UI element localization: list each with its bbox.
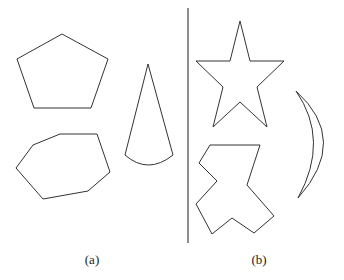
pentagon-shape — [17, 34, 108, 108]
panel-b-label: (b) — [251, 252, 266, 267]
cone-shape — [125, 64, 173, 165]
figure-canvas: (a) (b) — [0, 0, 344, 280]
heptagon-shape — [16, 134, 110, 199]
panel-a-label: (a) — [85, 252, 99, 267]
panel-a: (a) — [16, 34, 173, 267]
panel-b: (b) — [196, 21, 324, 267]
crescent-shape — [296, 91, 324, 198]
cross-polygon-shape — [196, 145, 274, 234]
star-shape — [196, 21, 284, 127]
